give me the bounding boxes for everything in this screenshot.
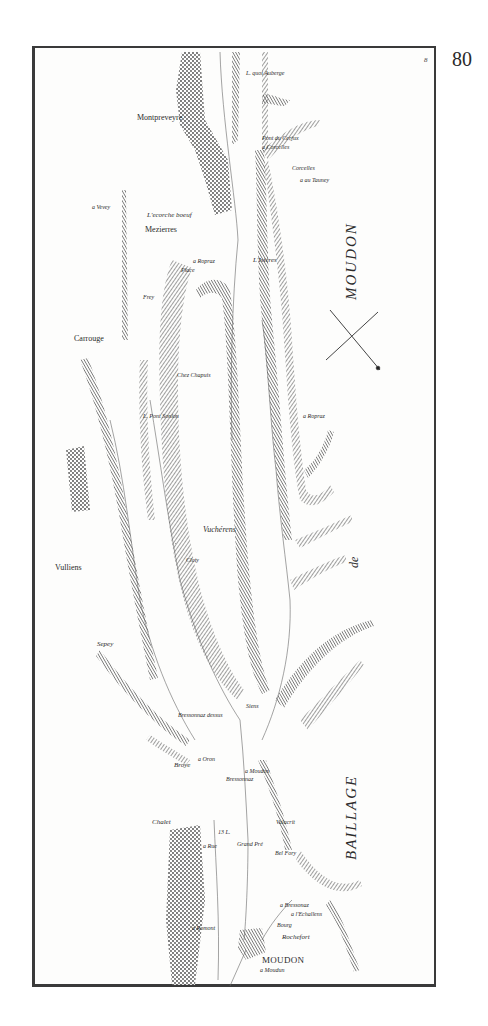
place-label-bourg: Bourg [277, 922, 292, 928]
place-label-a-lechallens: a l'Echallens [291, 911, 322, 917]
place-label-montpreveyre: Montpreveyre [137, 114, 182, 122]
place-label-a-vevey: a Vevey [92, 204, 110, 210]
place-label-vucherens: Vuchérens [203, 526, 236, 534]
place-label-place: Place [181, 267, 195, 273]
place-label-siens: Siens [246, 703, 259, 709]
place-label-rochefort: Rochefort [282, 934, 310, 941]
place-label-bressonnaz-dessus: Bressonnaz dessus [178, 712, 223, 718]
place-label-mezierres: Mezierres [145, 226, 177, 234]
place-label-cloty: Cloty [186, 557, 199, 563]
valley-hachures [66, 52, 374, 985]
place-label-valacrit: Valacrit [276, 819, 295, 825]
place-label-broye: Broye [174, 762, 190, 769]
region-label-moudon: MOUDON [344, 222, 359, 300]
place-label-a-moudon-2: a Moudun [260, 967, 285, 973]
place-label-grand-pre: Grand Pré [237, 841, 263, 847]
sheet-number: 8 [424, 56, 428, 64]
place-label-vulliens: Vulliens [55, 564, 82, 572]
map-terrain [0, 0, 488, 1026]
place-label-a-bressonaz: a Bressonaz [280, 902, 309, 908]
place-label-a-corcelles: a Corcelles [262, 144, 289, 150]
place-label-lecorche-boeuf: L'ecorche boeuf [147, 212, 192, 219]
place-label-a-ropraz-2: a Ropraz [303, 413, 325, 419]
place-label-sepey: Sepey [97, 641, 113, 648]
place-label-carrouge: Carrouge [74, 335, 104, 343]
place-label-13-l: 13 L. [218, 829, 230, 835]
place-label-a-au-tauney: a au Tauney [300, 177, 329, 183]
place-label-bel-fory: Bel Fory [275, 850, 296, 856]
place-label-corcelles: Corcelles [292, 165, 315, 171]
place-label-chez-chapuis: Chez Chapuis [177, 372, 211, 378]
place-label-laquo-auberge: L. quoi Auberge [246, 70, 285, 76]
place-label-moudon-town: MOUDON [262, 956, 304, 965]
place-label-a-ropraz-1: a Ropraz [193, 258, 215, 264]
place-label-a-romont: a Romont [192, 925, 215, 931]
place-label-bressonnaz: Bressonnaz [226, 776, 253, 782]
place-label-a-rue: a Rue [203, 843, 217, 849]
place-label-pont-du-cerjux: Pont du Cerjux [262, 135, 299, 141]
region-label-de: de [348, 557, 360, 568]
compass-icon [326, 310, 380, 370]
place-label-lpont-sonlon: L. Pont Sonlon [143, 413, 179, 419]
place-label-a-oron: a Oron [198, 756, 215, 762]
place-label-lisieres: L'Isières [253, 257, 277, 264]
place-label-a-moudon-1: a Moudon [245, 768, 270, 774]
place-label-chalet: Chalet [152, 819, 171, 826]
region-label-baillage: BAILLAGE [344, 775, 359, 860]
place-label-frey: Frey [143, 294, 154, 300]
